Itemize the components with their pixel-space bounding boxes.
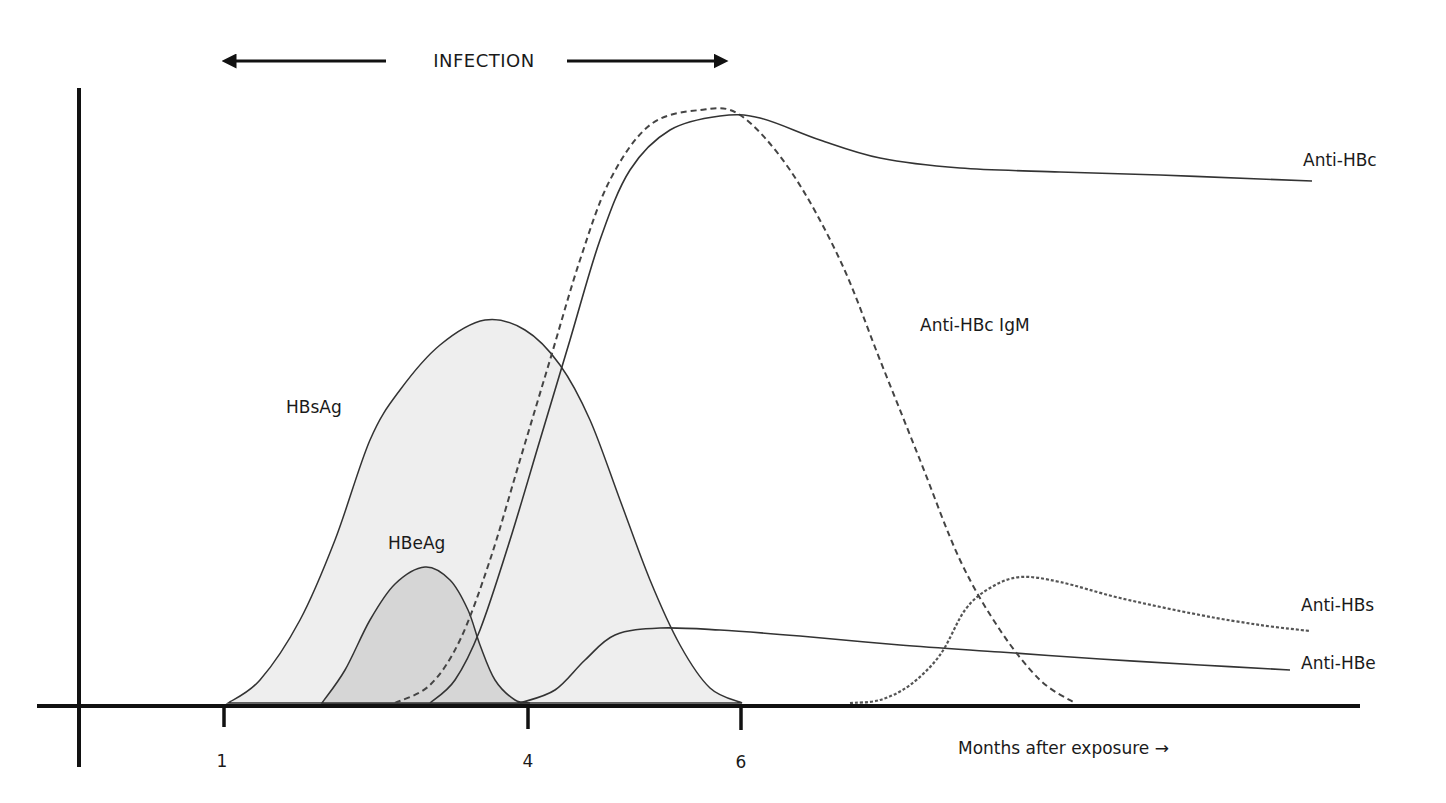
x-axis-label: Months after exposure → <box>958 738 1169 758</box>
label-hbeag: HBeAg <box>388 533 445 553</box>
x-tick-label-4: 4 <box>523 751 534 771</box>
anti-hbs-curve <box>850 577 1310 703</box>
infection-title: INFECTION <box>433 50 535 71</box>
hepatitis-b-serology-diagram: 1 4 6 Months after exposure → INFECTION … <box>0 0 1446 803</box>
label-anti-hbc: Anti-HBc <box>1303 150 1377 170</box>
label-hbsag: HBsAg <box>286 397 342 417</box>
label-anti-hbs: Anti-HBs <box>1301 595 1374 615</box>
x-tick-label-6: 6 <box>736 752 747 772</box>
x-tick-label-1: 1 <box>217 751 228 771</box>
label-anti-hbc-igm: Anti-HBc IgM <box>920 315 1030 335</box>
hbsag-curve <box>228 319 742 703</box>
label-anti-hbe: Anti-HBe <box>1301 653 1376 673</box>
